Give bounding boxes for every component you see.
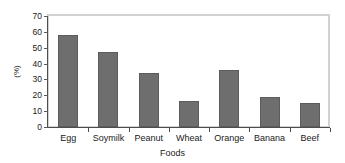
y-axis-tick-mark: [44, 48, 48, 49]
y-axis-title-text: (%): [11, 65, 20, 77]
x-axis-tick-label: Orange: [214, 133, 244, 143]
bar: [58, 35, 78, 127]
y-axis-tick-label: 10: [24, 107, 42, 115]
bar: [98, 52, 118, 127]
y-axis-tick-mark: [44, 79, 48, 80]
x-axis-tick-label: Egg: [60, 133, 76, 143]
bar: [300, 103, 320, 127]
bar-slot: [129, 16, 169, 127]
x-axis-tick-label: Banana: [254, 133, 285, 143]
x-axis-line: [47, 127, 330, 128]
y-axis-tick-label: 60: [24, 28, 42, 36]
x-axis-tick-label: Soymilk: [93, 133, 125, 143]
bar-slot: [290, 16, 330, 127]
x-axis-tick-label: Beef: [301, 133, 320, 143]
y-axis-tick-mark: [44, 16, 48, 17]
x-axis-tick-mark: [249, 128, 250, 132]
y-axis-tick-label: 50: [24, 44, 42, 52]
bar-chart-figure: (%) 010203040506070 Foods EggSoymilkPean…: [0, 0, 345, 163]
y-axis-tick-mark: [44, 111, 48, 112]
x-axis-tick-mark: [330, 128, 331, 132]
bar-slot: [48, 16, 88, 127]
y-axis-tick-label: 70: [24, 12, 42, 20]
bar-slot: [169, 16, 209, 127]
bar: [179, 101, 199, 127]
y-axis-tick-mark: [44, 95, 48, 96]
y-axis-tick-mark: [44, 32, 48, 33]
y-axis-tick-label: 40: [24, 60, 42, 68]
x-axis-tick-label: Peanut: [134, 133, 163, 143]
bar-slot: [209, 16, 249, 127]
y-axis-title: (%): [9, 56, 23, 86]
x-axis-tick-mark: [129, 128, 130, 132]
y-axis-tick-label: 20: [24, 91, 42, 99]
y-axis-tick-label: 0: [24, 123, 42, 131]
x-axis-tick-mark: [209, 128, 210, 132]
y-axis-tick-label: 30: [24, 75, 42, 83]
bar-slot: [249, 16, 289, 127]
bar-slot: [88, 16, 128, 127]
x-axis-tick-mark: [169, 128, 170, 132]
y-axis-tick-mark: [44, 64, 48, 65]
x-axis-tick-mark: [88, 128, 89, 132]
y-axis-tick-mark: [44, 127, 48, 128]
x-axis-tick-mark: [290, 128, 291, 132]
bar: [219, 70, 239, 127]
bar: [260, 97, 280, 127]
x-axis-title: Foods: [0, 148, 345, 158]
bar: [139, 73, 159, 127]
bar-series: [48, 16, 330, 127]
x-axis-tick-label: Wheat: [176, 133, 202, 143]
y-axis-tick-labels: 010203040506070: [24, 0, 42, 163]
